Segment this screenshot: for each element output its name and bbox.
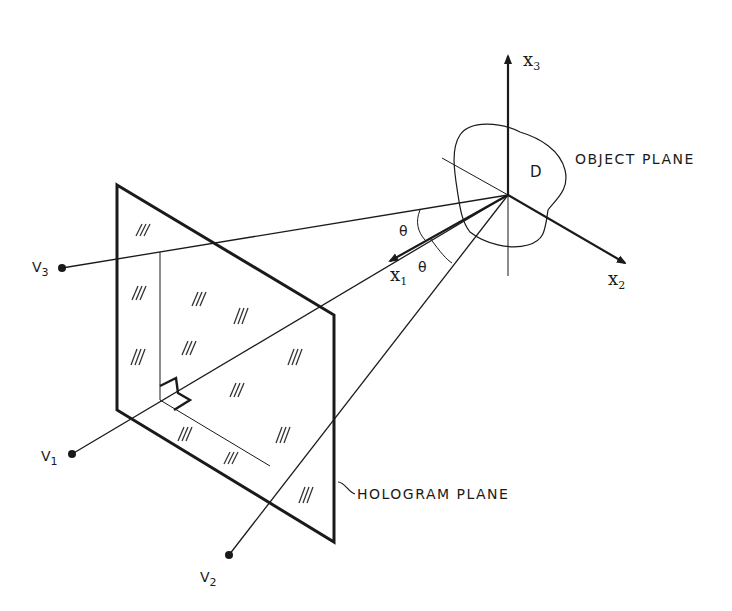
point-v1-label: V1 xyxy=(41,448,58,468)
x2-axis-label: x2 xyxy=(608,268,625,292)
point-v3-label: V3 xyxy=(32,259,49,279)
object-plane-label: OBJECT PLANE xyxy=(575,151,695,167)
x1-axis-label: x1 xyxy=(390,264,407,288)
x2-axis xyxy=(508,195,625,263)
region-d-label: D xyxy=(530,163,542,181)
object-plane-diagonal xyxy=(442,158,508,195)
theta-arc-upper xyxy=(418,210,425,240)
right-angle-marker xyxy=(160,378,190,410)
theta-lower-label: θ xyxy=(418,259,427,275)
hatch-marks xyxy=(131,224,313,503)
hologram-plane-label: HOLOGRAM PLANE xyxy=(357,486,509,502)
projection-horizontal xyxy=(160,400,270,466)
point-v1-dot xyxy=(68,450,76,458)
theta-upper-label: θ xyxy=(399,223,408,239)
point-v3-dot xyxy=(58,264,66,272)
object-region-outline xyxy=(454,124,566,247)
point-v2-label: V2 xyxy=(200,569,217,589)
hologram-geometry-diagram: OBJECT PLANE HOLOGRAM PLANE D θ θ x3 x2 … xyxy=(0,0,732,611)
point-v2-dot xyxy=(225,551,233,559)
theta-arc-lower xyxy=(430,238,452,263)
hologram-plane-leader xyxy=(338,482,355,494)
x3-axis-label: x3 xyxy=(523,49,540,73)
